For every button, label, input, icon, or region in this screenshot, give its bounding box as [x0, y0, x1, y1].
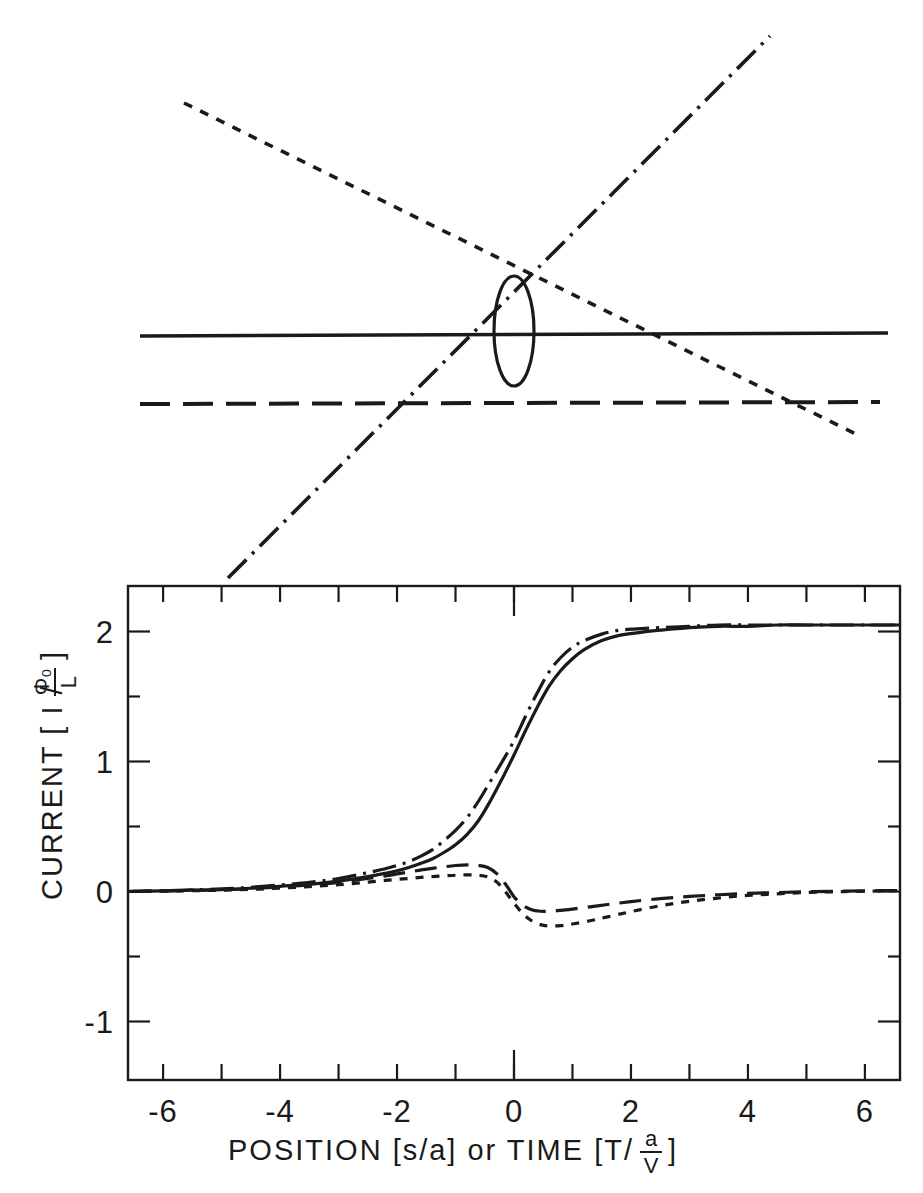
x-axis-ticks-top: [163, 586, 865, 602]
x-tick-label: 2: [622, 1094, 640, 1129]
y-axis-title-fraction-denominator: L: [56, 676, 81, 688]
x-tick-label: 4: [739, 1094, 757, 1129]
y-axis-title-fraction-numerator: Φ₀: [29, 669, 54, 696]
figure-root: -6-4-20246 -1012 POSITION [s/a] or TIME …: [0, 0, 923, 1193]
y-axis-ticks-left: [128, 632, 150, 1022]
current-vs-position-plot: -6-4-20246 -1012 POSITION [s/a] or TIME …: [0, 0, 923, 1193]
x-tick-label: -2: [382, 1094, 412, 1129]
y-axis-title-suffix: ]: [36, 650, 68, 660]
y-axis-title: CURRENT [ I / Φ₀ L ]: [29, 650, 81, 900]
y-tick-label: 2: [96, 615, 114, 650]
x-tick-label: -6: [148, 1094, 178, 1129]
y-tick-label: 1: [96, 745, 114, 780]
x-tick-label: 0: [505, 1094, 523, 1129]
y-axis-title-prefix: CURRENT [ I /: [36, 684, 68, 900]
y-tick-label: -1: [84, 1005, 114, 1040]
x-axis-title: POSITION [s/a] or TIME [T/ a V ]: [228, 1126, 678, 1178]
x-axis-title-fraction-denominator: V: [644, 1153, 659, 1178]
x-axis-title-fraction-numerator: a: [645, 1126, 658, 1151]
x-axis-ticks-bottom: [163, 1064, 865, 1080]
y-tick-label: 0: [96, 875, 114, 910]
x-tick-label: -4: [265, 1094, 295, 1129]
x-axis-tick-labels: -6-4-20246: [148, 1094, 874, 1129]
x-axis-title-prefix: POSITION [s/a] or TIME [T/: [228, 1134, 634, 1166]
x-tick-label: 6: [856, 1094, 874, 1129]
x-axis-title-suffix: ]: [668, 1134, 678, 1166]
y-axis-ticks-right: [878, 632, 900, 1022]
y-axis-tick-labels: -1012: [84, 615, 114, 1040]
